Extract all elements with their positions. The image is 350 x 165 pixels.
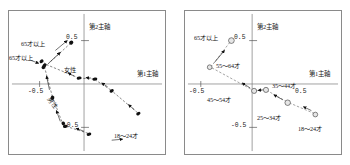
x-tick-label-neg-right: -0.5 <box>189 89 204 95</box>
point-label-65plus-b: 65才以上 <box>9 55 33 61</box>
axis2-label-right: 第2主軸 <box>257 24 278 30</box>
y-tick-label-pos-left: 0.5 <box>66 35 78 41</box>
point-label-25-34: 25〜34才 <box>257 115 281 121</box>
scatter-plot-right <box>185 11 341 154</box>
data-points-right <box>207 38 317 117</box>
plot-svg-left <box>9 11 165 154</box>
series-label-female: 女性 <box>64 67 76 73</box>
series-arrows-male <box>47 52 85 131</box>
point-label-18-24-right: 18〜24才 <box>298 126 322 132</box>
point-18-24 <box>313 112 318 117</box>
x-tick-label-neg-left: -0.5 <box>28 89 43 95</box>
point-55-64 <box>207 65 212 70</box>
point-45-54 <box>252 88 257 93</box>
y-tick-label-neg-right: -0.5 <box>231 123 246 129</box>
point-label-35-44: 35〜44才 <box>272 83 296 89</box>
x-tick-label-pos-right: 0.5 <box>295 89 307 95</box>
y-tick-label-pos-right: 0.5 <box>234 35 246 41</box>
scatter-plot-left <box>9 11 165 154</box>
axis1-label-right: 第1主軸 <box>309 71 330 77</box>
y-tick-label-neg-left: -0.5 <box>63 123 78 129</box>
chart-panel-left: 第2主軸 第1主軸 0.5 -0.5 -0.5 65才以上 65才以上 女性 男… <box>8 10 166 155</box>
series-path-male <box>45 44 88 134</box>
point-label-55-64: 55〜64才 <box>216 63 240 69</box>
axis2-label-left: 第2主軸 <box>89 24 110 30</box>
point-25-34 <box>285 100 291 106</box>
point-label-65plus-right: 65才以上 <box>194 35 218 41</box>
chart-panel-right: 第2主軸 第1主軸 0.5 -0.5 0.5 -0.5 65才以上 55〜64才… <box>184 10 342 155</box>
point-label-45-54: 45〜54才 <box>207 97 231 103</box>
point-label-65plus-a: 65才以上 <box>21 41 45 47</box>
point-35-44 <box>263 87 268 92</box>
plot-svg-right <box>185 11 341 154</box>
figure-canvas: 第2主軸 第1主軸 0.5 -0.5 -0.5 65才以上 65才以上 女性 男… <box>0 0 350 165</box>
axis1-label-left: 第1主軸 <box>137 71 158 77</box>
point-label-18-24-left: 18〜24才 <box>114 133 138 139</box>
